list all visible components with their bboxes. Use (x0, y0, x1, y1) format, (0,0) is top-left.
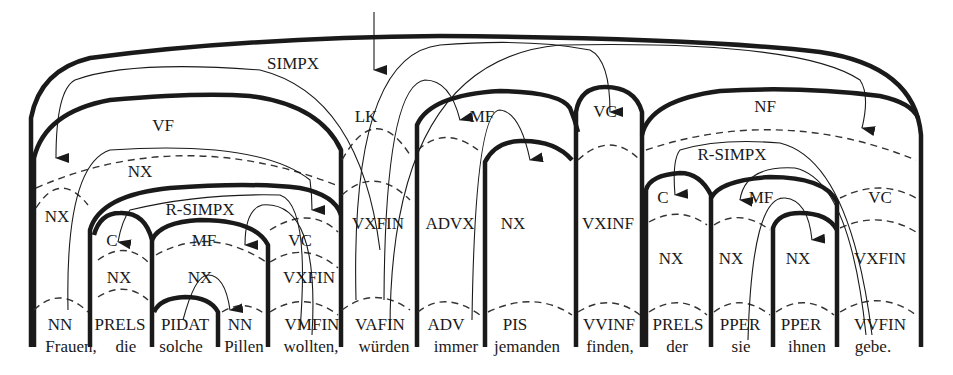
label-simpx: SIMPX (267, 54, 319, 73)
token-word: ihnen (788, 337, 826, 356)
label-vc-2: VC (868, 188, 892, 207)
constituent-boundaries (31, 36, 921, 347)
label-vc: VC (593, 102, 617, 121)
label-vxfin-wuerden: VXFIN (352, 214, 404, 233)
token-word: immer (434, 337, 479, 356)
label-nx-solche-pillen: NX (188, 268, 213, 287)
label-nx-frauen: NX (45, 207, 70, 226)
nf-boundary (642, 89, 918, 135)
token-word: die (116, 337, 137, 356)
label-nx-sie: NX (719, 249, 744, 268)
token-word: würden (359, 337, 410, 356)
token-word: Pillen (224, 337, 264, 356)
label-vxfin-gebe: VXFIN (854, 249, 906, 268)
pos-tag: VVINF (583, 315, 635, 334)
pos-tag: PIDAT (161, 315, 210, 334)
label-rsimpx-1: R-SIMPX (166, 200, 235, 219)
label-nx-vf: NX (128, 162, 153, 181)
token-word: finden, (586, 337, 634, 356)
token-word: Frauen, (45, 337, 96, 356)
label-c-2: C (657, 188, 668, 207)
pos-tag: PRELS (94, 315, 145, 334)
token-word: wollten, (283, 337, 338, 356)
label-nx-die: NX (107, 268, 132, 287)
label-mf: MF (470, 107, 495, 126)
label-nf: NF (754, 97, 776, 116)
parse-tree-diagram: SIMPX VF LK MF VC NF NX NX R-SIMPX C MF … (0, 0, 953, 375)
label-mf-1: MF (192, 231, 217, 250)
label-nx-der: NX (659, 249, 684, 268)
nx-jemanden-boundary (485, 141, 572, 347)
pos-tag: VMFIN (285, 315, 340, 334)
pos-tag: NN (48, 315, 73, 334)
label-nx-jemanden: NX (501, 214, 526, 233)
label-mf-2: MF (749, 188, 774, 207)
dependency-arrows (56, 12, 872, 340)
pos-tags: NN PRELS PIDAT NN VMFIN VAFIN ADV PIS VV… (48, 315, 906, 334)
label-vf: VF (152, 116, 174, 135)
token-word: sie (732, 337, 751, 356)
label-rsimpx-2: R-SIMPX (698, 145, 767, 164)
pos-tag: ADV (428, 315, 466, 334)
token-word: gebe. (855, 337, 891, 356)
label-c-1: C (106, 231, 117, 250)
label-vxfin-wollten: VXFIN (283, 268, 335, 287)
tokens: Frauen, die solche Pillen wollten, würde… (45, 337, 891, 356)
pos-tag: NN (228, 315, 253, 334)
pos-tag: VVFIN (854, 315, 906, 334)
label-nx-ihnen: NX (786, 249, 811, 268)
label-vxinf: VXINF (582, 214, 634, 233)
pos-tag: VAFIN (355, 315, 405, 334)
pos-tag: PPER (781, 315, 822, 334)
label-lk: LK (355, 107, 378, 126)
token-word: solche (159, 337, 202, 356)
pos-tag: PIS (503, 315, 528, 334)
label-vc-1: VC (288, 231, 312, 250)
pos-tag: PPER (720, 315, 761, 334)
token-word: jemanden (493, 337, 561, 356)
label-advx: ADVX (425, 214, 474, 233)
token-word: der (666, 337, 688, 356)
pos-tag: PRELS (652, 315, 703, 334)
